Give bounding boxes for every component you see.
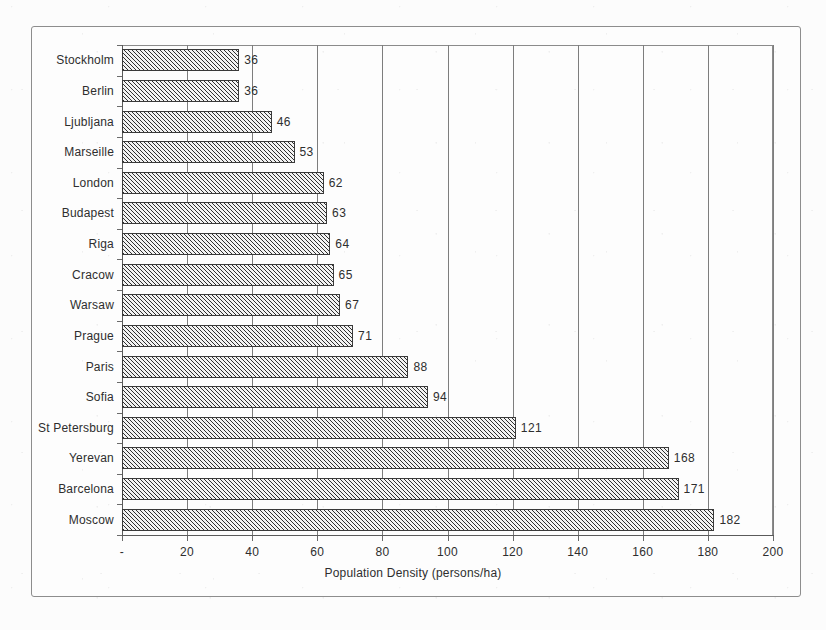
bar-value-label: 62: [329, 176, 343, 190]
category-label: St Petersburg: [4, 421, 114, 435]
bar[interactable]: [122, 264, 334, 286]
bar-row: 67: [122, 290, 773, 321]
category-label: Cracow: [4, 268, 114, 282]
x-axis-tick: [448, 536, 449, 541]
category-label: Yerevan: [4, 451, 114, 465]
x-axis-tick-label: 60: [297, 545, 337, 559]
bar-row: 53: [122, 137, 773, 168]
category-label: Warsaw: [4, 298, 114, 312]
bar-row: 36: [122, 45, 773, 76]
bar-value-label: 94: [433, 390, 447, 404]
bar[interactable]: [122, 172, 324, 194]
bar-value-label: 36: [244, 84, 258, 98]
x-axis-tick-label: 80: [362, 545, 402, 559]
x-axis-tick: [317, 536, 318, 541]
x-axis-tick: [578, 536, 579, 541]
bar-value-label: 63: [332, 206, 346, 220]
bar[interactable]: [122, 202, 327, 224]
category-label: Marseille: [4, 145, 114, 159]
bar-value-label: 46: [277, 115, 291, 129]
category-label: Prague: [4, 329, 114, 343]
bar-row: 94: [122, 382, 773, 413]
bar-row: 63: [122, 198, 773, 229]
category-label: Ljubljana: [4, 115, 114, 129]
x-axis-tick-label: 40: [232, 545, 272, 559]
category-label: Stockholm: [4, 53, 114, 67]
category-label: Paris: [4, 360, 114, 374]
x-axis-tick: [187, 536, 188, 541]
x-axis-tick: [708, 536, 709, 541]
bar[interactable]: [122, 447, 669, 469]
chart-page: StockholmBerlinLjubljanaMarseilleLondonB…: [0, 0, 826, 630]
x-axis-tick-label: 20: [167, 545, 207, 559]
bar-row: 71: [122, 321, 773, 352]
bar[interactable]: [122, 478, 679, 500]
x-axis-tick: [382, 536, 383, 541]
bar-value-label: 168: [674, 451, 695, 465]
bar[interactable]: [122, 233, 330, 255]
category-label: Sofia: [4, 390, 114, 404]
x-axis-tick-label: 180: [688, 545, 728, 559]
bar-value-label: 88: [413, 360, 427, 374]
category-label: Budapest: [4, 206, 114, 220]
x-axis-tick-label: -: [102, 545, 142, 559]
bar-value-label: 71: [358, 329, 372, 343]
bar-row: 36: [122, 76, 773, 107]
category-label: Riga: [4, 237, 114, 251]
bar[interactable]: [122, 509, 714, 531]
x-axis-tick-label: 200: [753, 545, 793, 559]
bar-row: 65: [122, 259, 773, 290]
bar-row: 46: [122, 106, 773, 137]
bar-value-label: 171: [684, 482, 705, 496]
bar-value-label: 36: [244, 53, 258, 67]
bar[interactable]: [122, 386, 428, 408]
category-label: Moscow: [4, 513, 114, 527]
bar[interactable]: [122, 80, 239, 102]
bar-value-label: 182: [719, 513, 740, 527]
bar-row: 182: [122, 504, 773, 535]
bar-row: 64: [122, 229, 773, 260]
bar[interactable]: [122, 141, 295, 163]
bar-value-label: 67: [345, 298, 359, 312]
bar[interactable]: [122, 325, 353, 347]
x-axis-tick: [773, 536, 774, 541]
bar-value-label: 65: [339, 268, 353, 282]
bar-value-label: 53: [300, 145, 314, 159]
x-axis-tick-label: 160: [623, 545, 663, 559]
bar-value-label: 64: [335, 237, 349, 251]
bar-row: 168: [122, 443, 773, 474]
x-axis-tick: [122, 536, 123, 541]
category-label: Barcelona: [4, 482, 114, 496]
bar-row: 62: [122, 168, 773, 199]
bar[interactable]: [122, 49, 239, 71]
bar[interactable]: [122, 294, 340, 316]
bar[interactable]: [122, 111, 272, 133]
x-axis-tick: [513, 536, 514, 541]
bar-row: 121: [122, 413, 773, 444]
bar[interactable]: [122, 356, 408, 378]
plot-area: 363646536263646567718894121168171182: [122, 45, 773, 535]
x-axis-tick-label: 140: [558, 545, 598, 559]
x-axis-tick: [643, 536, 644, 541]
bar[interactable]: [122, 417, 516, 439]
category-label: London: [4, 176, 114, 190]
category-label: Berlin: [4, 84, 114, 98]
category-labels-group: StockholmBerlinLjubljanaMarseilleLondonB…: [0, 45, 114, 535]
bar-row: 171: [122, 474, 773, 505]
x-axis-tick: [252, 536, 253, 541]
y-axis-tick: [117, 535, 122, 536]
gridline: [773, 45, 774, 535]
x-axis-tick-label: 100: [428, 545, 468, 559]
x-axis-tick-label: 120: [493, 545, 533, 559]
bar-row: 88: [122, 351, 773, 382]
x-axis-title: Population Density (persons/ha): [0, 566, 826, 580]
bar-value-label: 121: [521, 421, 542, 435]
